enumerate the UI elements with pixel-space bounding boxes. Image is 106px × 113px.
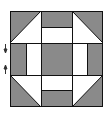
strip-left-light <box>26 43 41 75</box>
strip-right-light <box>72 43 88 75</box>
arrow-markers <box>4 44 7 74</box>
block-background <box>10 11 103 107</box>
arrow-down-icon <box>4 44 7 53</box>
quilt-block-diagram <box>0 0 106 113</box>
arrow-up-icon <box>4 65 7 74</box>
strip-top-light <box>41 27 72 43</box>
strip-bottom-light <box>41 75 72 91</box>
